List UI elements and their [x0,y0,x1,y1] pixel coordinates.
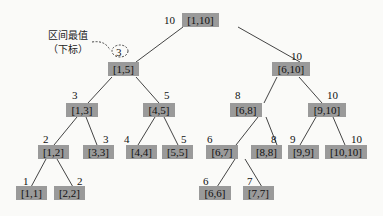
node-value: 9 [290,133,296,145]
node-value: 2 [43,133,49,145]
node-value: 3 [103,133,109,145]
node-value: 10 [327,89,338,101]
node-value: 8 [271,133,277,145]
tree-node-4-5: [4,5] [143,103,175,117]
node-value: 3 [72,89,78,101]
tree-node-1-10: [1,10] [182,13,219,27]
tree-node-10-10: [10,10] [325,145,367,159]
node-value: 3 [116,46,122,58]
annotation-label-line2: （下标） [48,43,88,56]
node-value: 5 [181,133,187,145]
node-value: 10 [351,133,362,145]
tree-node-9-9: [9,9] [288,145,319,159]
annotation-label-line1: 区间最值 [48,29,88,42]
tree-node-2-2: [2,2] [54,186,85,200]
node-value: 5 [164,89,170,101]
node-value: 8 [235,89,241,101]
tree-node-1-1: [1,1] [16,186,47,200]
node-value: 6 [207,133,213,145]
tree-node-5-5: [5,5] [162,145,193,159]
tree-node-8-8: [8,8] [251,145,282,159]
tree-node-4-4: [4,4] [126,145,157,159]
tree-node-6-6: [6,6] [199,186,231,200]
node-value: 10 [291,50,302,62]
node-value: 4 [124,133,130,145]
tree-node-3-3: [3,3] [83,145,114,159]
tree-node-9-10: [9,10] [308,103,346,117]
tree-node-6-7: [6,7] [206,145,238,159]
tree-node-1-5: [1,5] [108,62,139,76]
node-value: 10 [164,14,175,26]
tree-node-6-8: [6,8] [230,103,262,117]
tree-node-1-3: [1,3] [66,103,98,117]
tree-node-6-10: [6,10] [272,62,310,76]
tree-node-7-7: [7,7] [243,186,274,200]
tree-node-1-2: [1,2] [38,145,69,159]
